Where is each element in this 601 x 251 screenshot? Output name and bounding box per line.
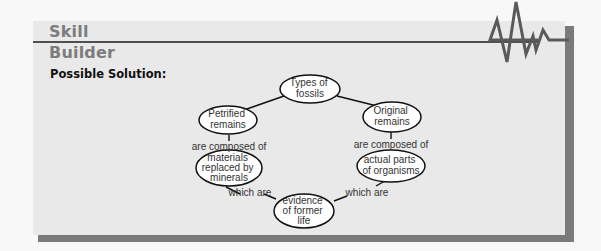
node-actual-label: actual parts of organisms xyxy=(362,154,419,176)
link-label-actual-evidence: which are xyxy=(345,187,389,198)
heartbeat-icon xyxy=(490,2,569,62)
node-original-label: Original remains xyxy=(373,105,410,127)
link-label-original-actual: are composed of xyxy=(354,139,429,150)
link-label-materials-evidence: which are xyxy=(228,187,272,198)
link-label-petrified-materials: are composed of xyxy=(192,141,267,152)
node-petrified-label: Petrified remains xyxy=(208,108,247,130)
concept-map: Types of fossils Petrified remains Origi… xyxy=(0,0,601,251)
